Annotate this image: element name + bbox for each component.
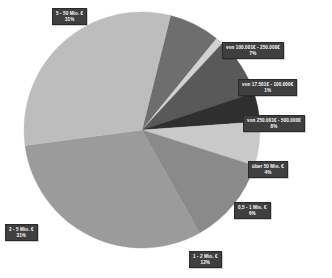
pie-label-category: von 17.501€ - 100.000€	[242, 82, 293, 88]
pie-label-category: 0,5 - 1 Mio. €	[238, 205, 267, 211]
callout-100001-250000[interactable]: von 100.001€ - 250.000€7%	[222, 42, 284, 59]
callout-ueber-50-mio[interactable]: über 50 Mio. €4%	[248, 161, 288, 178]
pie-chart: 5 - 50 Mio. €31%von 100.001€ - 250.000€7…	[0, 0, 332, 278]
pie-label-category: 2 - 5 Mio. €	[9, 227, 34, 233]
pie-label-percent: 31%	[56, 17, 83, 23]
pie-label-category: von 100.001€ - 250.000€	[226, 45, 280, 51]
pie-label-category: von 250.001€ - 500.000€	[247, 118, 301, 124]
pie-label-category: über 50 Mio. €	[252, 164, 284, 170]
pie-label-percent: 1%	[242, 88, 293, 94]
pie-label-category: 5 - 50 Mio. €	[56, 11, 83, 17]
pie-label-category: 1 - 2 Mio. €	[193, 254, 218, 260]
pie-label-percent: 31%	[9, 233, 34, 239]
callout-1-2-mio[interactable]: 1 - 2 Mio. €12%	[189, 251, 222, 268]
pie-label-percent: 8%	[247, 124, 301, 130]
callout-2-5-mio[interactable]: 2 - 5 Mio. €31%	[5, 224, 38, 241]
callout-05-1-mio[interactable]: 0,5 - 1 Mio. €6%	[234, 202, 271, 219]
pie-label-percent: 6%	[238, 211, 267, 217]
pie-label-percent: 12%	[193, 260, 218, 266]
callout-250001-500000[interactable]: von 250.001€ - 500.000€8%	[243, 115, 305, 132]
pie-label-percent: 4%	[252, 170, 284, 176]
callout-17501-100000[interactable]: von 17.501€ - 100.000€1%	[238, 79, 297, 96]
callout-5-50-mio[interactable]: 5 - 50 Mio. €31%	[52, 8, 87, 25]
pie-label-percent: 7%	[226, 51, 280, 57]
